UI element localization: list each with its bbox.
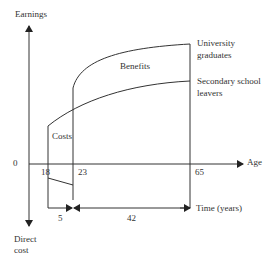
university-label-2: graduates bbox=[197, 50, 231, 61]
direct-cost-label-1: Direct bbox=[14, 234, 37, 245]
benefits-label: Benefits bbox=[120, 61, 150, 72]
segment-42-label: 42 bbox=[127, 213, 136, 224]
segment-5-label: 5 bbox=[58, 213, 63, 224]
university-label-1: University bbox=[197, 38, 235, 49]
time-label: Time (years) bbox=[196, 203, 242, 214]
age-label: Age bbox=[247, 157, 262, 168]
direct-cost-label-2: cost bbox=[14, 245, 29, 256]
secondary-school-curve bbox=[48, 81, 190, 126]
tick-23: 23 bbox=[78, 167, 87, 178]
secondary-label-1: Secondary school bbox=[197, 76, 261, 87]
tick-18: 18 bbox=[41, 167, 50, 178]
costs-label: Costs bbox=[52, 131, 72, 142]
tick-65: 65 bbox=[195, 167, 204, 178]
direct-cost-line bbox=[48, 178, 73, 185]
origin-label: 0 bbox=[13, 158, 18, 169]
secondary-label-2: leavers bbox=[197, 88, 222, 99]
earnings-label: Earnings bbox=[15, 9, 47, 20]
